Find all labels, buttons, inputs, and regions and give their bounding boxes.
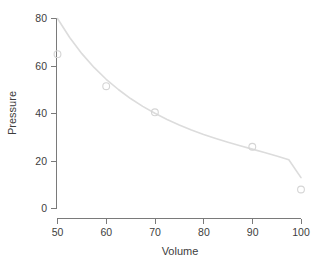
- pressure-volume-scatter-plot: 80 60 40 20 0 50 60 70 80 90 100 Volume …: [0, 0, 317, 264]
- x-tick-label-60: 60: [100, 226, 112, 238]
- fitted-curve: [58, 19, 302, 178]
- x-tick-label-90: 90: [247, 226, 259, 238]
- x-tick-label-100: 100: [292, 226, 310, 238]
- x-tick-label-50: 50: [52, 226, 64, 238]
- y-tick-label-60: 60: [35, 60, 47, 72]
- y-axis-title: Pressure: [6, 91, 18, 135]
- y-tick-label-20: 20: [35, 155, 47, 167]
- x-tick-label-70: 70: [149, 226, 161, 238]
- y-axis-ticks: [51, 19, 57, 209]
- x-axis-title: Volume: [162, 245, 199, 257]
- y-tick-label-80: 80: [35, 12, 47, 24]
- data-point: [298, 186, 305, 193]
- y-tick-label-0: 0: [41, 202, 47, 214]
- x-tick-label-80: 80: [198, 226, 210, 238]
- data-point-markers: [54, 51, 304, 193]
- chart-container: 80 60 40 20 0 50 60 70 80 90 100 Volume …: [0, 0, 317, 264]
- data-point: [54, 51, 61, 58]
- y-tick-label-40: 40: [35, 107, 47, 119]
- x-axis-ticks: [58, 219, 302, 225]
- data-point: [103, 83, 110, 90]
